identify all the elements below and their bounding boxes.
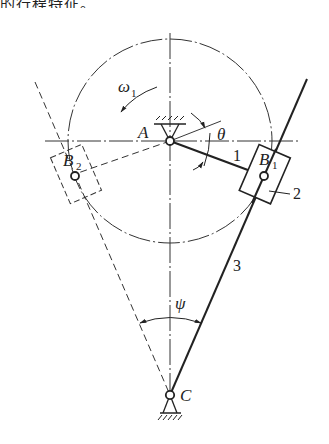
link3-extreme-position: [35, 82, 170, 395]
link-3: [170, 79, 307, 395]
fixed-pivot-c: [158, 391, 182, 420]
label-b2: B: [63, 151, 74, 170]
label-omega-sub: 1: [131, 87, 137, 99]
label-b1-sub: 1: [272, 159, 278, 171]
label-link-3: 3: [233, 257, 241, 274]
joint-b2: [71, 172, 79, 180]
label-b2-sub: 2: [76, 160, 82, 172]
label-psi: ψ: [175, 294, 186, 313]
label-b1: B: [259, 150, 270, 169]
label-theta: θ: [217, 125, 225, 144]
joint-b1: [260, 172, 268, 180]
theta-arc-upper: [191, 113, 205, 128]
theta-arc-lower: [204, 133, 210, 166]
label-c: C: [180, 386, 192, 405]
label-link-1: 1: [233, 147, 241, 164]
crank-extreme-position: [75, 141, 170, 174]
mechanism-diagram: ω 1 A θ 1 B 1 B 2 2 3 ψ C: [0, 0, 329, 444]
label-a: A: [137, 123, 149, 142]
label-link-2: 2: [293, 185, 301, 202]
label-omega: ω: [118, 77, 130, 96]
theta-arc-lower-arrow: [193, 162, 203, 170]
